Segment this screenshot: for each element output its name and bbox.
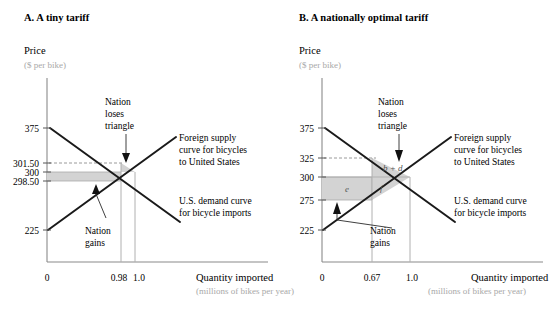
panel-b-xtick-10: 1.0 (406, 273, 418, 283)
panel-b-xtick-067: 0.67 (364, 273, 381, 283)
panel-b-xtick-0: 0 (320, 273, 325, 283)
panel-b-demand-label-l2: for bicycle imports (454, 208, 527, 218)
panel-b-supply-label-l1: Foreign supply (454, 133, 512, 143)
panel-a-loses-arrow-head (122, 153, 130, 163)
panel-a-y-axis-unit: ($ per bike) (24, 60, 66, 70)
panel-a-supply-label-l1: Foreign supply (179, 133, 237, 143)
panel-b-gains-arrow-head (333, 202, 341, 214)
panel-a-loses-annotation: Nation loses triangle (105, 97, 134, 163)
panel-a-gains-line1: Nation (85, 226, 111, 236)
panel-a-loses-line1: Nation (105, 97, 131, 107)
panel-b-ytick-225: 225 (300, 226, 315, 236)
panel-b-loses-line2: loses (378, 109, 397, 119)
panel-a-ytick-225: 225 (25, 226, 40, 236)
panel-b-loses-arrow-head (395, 150, 403, 162)
panel-b-loses-line1: Nation (378, 97, 404, 107)
panel-b-x-axis-name: Quantity imported (471, 272, 549, 283)
panel-a-x-ticks: 0 0.98 1.0 (45, 273, 146, 283)
panel-b-loses-line3: triangle (378, 121, 407, 131)
panel-a-foreign-supply-curve (48, 137, 176, 230)
panel-a-title: A. A tiny tariff (24, 12, 90, 23)
panel-b-y-axis-unit: ($ per bike) (299, 60, 341, 70)
panel-b-x-axis-unit: (millions of bikes per year) (428, 286, 526, 296)
panel-a-supply-label-l3: to United States (179, 157, 240, 167)
panel-a-supply-label-l2: curve for bicycles (179, 145, 247, 155)
panel-b-supply-label-l3: to United States (454, 157, 515, 167)
panel-b-us-demand-curve (325, 128, 455, 222)
panel-a-gains-leader (96, 194, 106, 218)
panel-b-title: B. A nationally optimal tariff (299, 12, 429, 23)
panel-b-gains-line1: Nation (370, 226, 396, 236)
panel-a-xtick-0: 0 (45, 273, 50, 283)
panel-b-demand-label-l1: U.S. demand curve (454, 196, 527, 206)
panel-b-label-e: e (345, 184, 349, 194)
panel-b-ytick-375: 375 (300, 124, 315, 134)
panel-a: A. A tiny tariff Price ($ per bike) 375 … (13, 12, 294, 296)
figure-canvas: A. A tiny tariff Price ($ per bike) 375 … (0, 0, 550, 312)
panel-a-demand-label-l1: U.S. demand curve (179, 196, 252, 206)
panel-a-demand-label-l2: for bicycle imports (179, 208, 252, 218)
panel-a-nation-gains-rectangle (47, 172, 121, 181)
panel-a-ytick-375: 375 (25, 124, 40, 134)
panel-b-supply-label: Foreign supply curve for bicycles to Uni… (454, 133, 522, 167)
panel-b-label-b-plus-d: b + d (383, 163, 403, 173)
panel-a-supply-label: Foreign supply curve for bicycles to Uni… (179, 133, 247, 167)
panel-b-supply-label-l2: curve for bicycles (454, 145, 522, 155)
panel-a-x-axis-unit: (millions of bikes per year) (196, 286, 294, 296)
panel-b-ytick-325: 325 (300, 154, 315, 164)
panel-a-ytick-29850: 298.50 (13, 177, 39, 187)
panel-b: B. A nationally optimal tariff Price ($ … (299, 12, 549, 296)
panel-b-gains-annotation: Nation gains (333, 202, 396, 248)
panel-a-y-ticks: 375 301.50 300 298.50 225 (13, 124, 51, 236)
panel-a-loses-line2: loses (105, 109, 124, 119)
panel-b-gains-line2: gains (370, 238, 390, 248)
panel-a-x-axis-name: Quantity imported (196, 272, 274, 283)
panel-a-gains-line2: gains (85, 238, 105, 248)
panel-a-gains-arrow-head (92, 184, 100, 194)
panel-b-y-axis-name: Price (299, 45, 321, 56)
panel-a-loses-line3: triangle (105, 121, 134, 131)
panel-a-y-axis-name: Price (24, 45, 46, 56)
panel-a-gains-annotation: Nation gains (85, 184, 111, 248)
panel-a-xtick-10: 1.0 (133, 273, 145, 283)
panel-b-ytick-300: 300 (300, 173, 315, 183)
panel-b-x-ticks: 0 0.67 1.0 (320, 273, 419, 283)
panel-b-demand-label: U.S. demand curve for bicycle imports (454, 196, 527, 218)
panel-a-xtick-098: 0.98 (111, 273, 128, 283)
panel-a-demand-label: U.S. demand curve for bicycle imports (179, 196, 252, 218)
panel-b-ytick-275: 275 (300, 196, 315, 206)
panel-b-loses-annotation: Nation loses triangle (378, 97, 407, 162)
